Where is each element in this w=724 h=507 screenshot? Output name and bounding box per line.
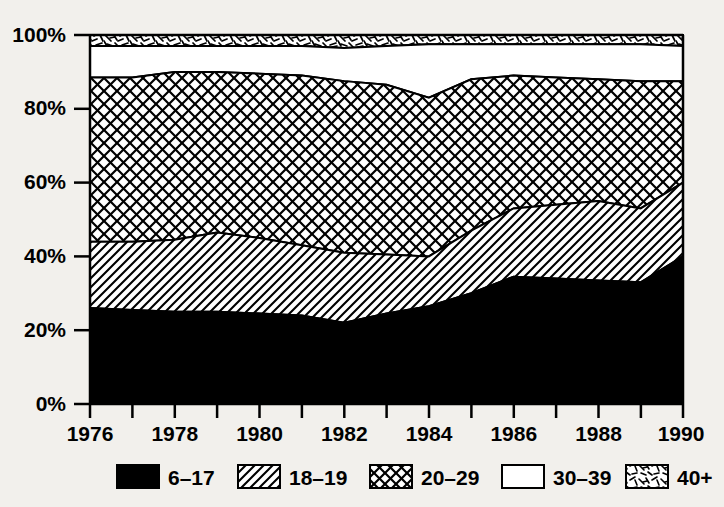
y-tick-label-100: 100% (12, 23, 66, 46)
legend-swatch-40plus (626, 465, 668, 488)
legend-swatch-30-39 (502, 465, 544, 488)
legend-swatch-18-19 (238, 465, 280, 488)
y-tick-label-20: 20% (24, 318, 66, 341)
y-tick-label-0: 0% (36, 392, 67, 415)
legend-item-18-19[interactable]: 18–19 (238, 465, 347, 489)
stacked-area-chart: 0% 20% 40% 60% 80% 100% 197 (0, 0, 724, 507)
legend-label-30-39: 30–39 (553, 466, 611, 489)
legend-label-18-19: 18–19 (289, 466, 347, 489)
x-tick-label-1982: 1982 (321, 422, 368, 445)
y-tick-label-60: 60% (24, 170, 66, 193)
legend-swatch-20-29 (370, 465, 412, 488)
legend-swatch-6-17 (117, 465, 159, 488)
y-tick-label-80: 80% (24, 96, 66, 119)
legend-item-30-39[interactable]: 30–39 (502, 465, 611, 489)
legend-label-6-17: 6–17 (168, 466, 215, 489)
legend-label-20-29: 20–29 (421, 466, 479, 489)
x-tick-label-1988: 1988 (575, 422, 622, 445)
legend-label-40plus: 40+ (677, 466, 713, 489)
x-tick-label-1976: 1976 (67, 422, 114, 445)
x-tick-label-1990: 1990 (658, 422, 705, 445)
y-tick-label-40: 40% (24, 244, 66, 267)
x-tick-label-1984: 1984 (406, 422, 453, 445)
legend-item-20-29[interactable]: 20–29 (370, 465, 479, 489)
chart-container: 0% 20% 40% 60% 80% 100% 197 (0, 0, 724, 507)
x-tick-label-1980: 1980 (236, 422, 283, 445)
x-tick-label-1978: 1978 (151, 422, 198, 445)
x-tick-label-1986: 1986 (490, 422, 537, 445)
